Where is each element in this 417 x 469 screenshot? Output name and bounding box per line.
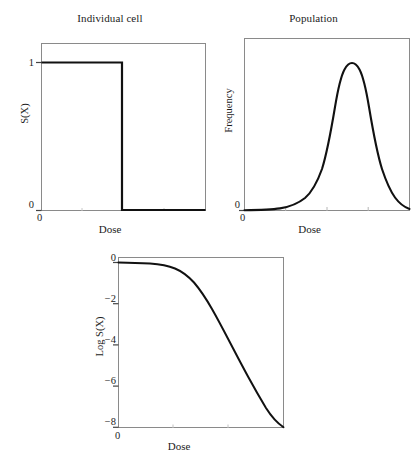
- x-axis-label-log-survival: Dose: [42, 440, 316, 452]
- series-step-survival: [42, 63, 206, 211]
- plot-individual-cell: [0, 0, 220, 240]
- figure-dose-response-panels: Individual cell S(X) 1 0 0 Dose Populati…: [0, 0, 417, 469]
- panel-individual-cell: Individual cell S(X) 1 0 0 Dose: [0, 0, 220, 240]
- series-log-survival: [119, 263, 284, 428]
- series-population-frequency: [245, 63, 410, 210]
- x-axis-label-individual-cell: Dose: [0, 223, 220, 235]
- plot-population: [210, 0, 417, 240]
- plot-frame: [245, 39, 410, 211]
- plot-log-survival: [60, 243, 360, 469]
- panel-population: Population Frequency 0 0 Dose: [210, 0, 417, 240]
- x-axis-label-population: Dose: [210, 223, 409, 235]
- plot-frame: [119, 258, 284, 428]
- plot-frame: [42, 44, 206, 211]
- panel-log-survival: Log S(X) 0 −2 −4 −6 −8 0 Dose: [60, 243, 360, 469]
